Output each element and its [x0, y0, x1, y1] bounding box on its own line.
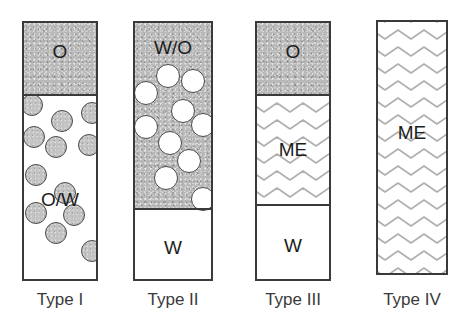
droplet-oil [63, 204, 85, 226]
phase-divider [135, 208, 211, 210]
phase-behaviour-figure: OO/WW/OWOMEWMEType IType IIType IIIType … [0, 0, 475, 324]
phase-oil: O [24, 23, 96, 95]
wave-pattern-icon [378, 22, 446, 275]
vial-caption-3: Type III [250, 290, 336, 310]
phase-label-oil: O [24, 41, 96, 63]
droplet-oil [45, 136, 67, 158]
droplet-water [134, 81, 158, 105]
phase-divider [24, 94, 96, 96]
vial-type-2: W/OW [133, 21, 213, 281]
droplet-oil [54, 182, 76, 204]
phase-label-water: W [257, 235, 329, 257]
phase-microemulsion: ME [378, 22, 446, 275]
phase-divider [257, 94, 329, 96]
droplet-oil [81, 240, 98, 262]
phase-oil: O [257, 23, 329, 95]
phase-label-water-in-oil: W/O [135, 37, 211, 59]
phase-water: W [135, 209, 211, 281]
vial-type-1: OO/W [22, 21, 98, 281]
droplet-oil [25, 202, 47, 224]
phase-water: W [257, 205, 329, 281]
droplet-oil [81, 102, 98, 124]
droplet-water [191, 113, 213, 137]
droplet-oil [22, 94, 43, 116]
droplet-water [158, 131, 182, 155]
phase-label-oil: O [257, 41, 329, 63]
droplet-water [154, 166, 178, 190]
droplet-water [181, 69, 205, 93]
phase-microemulsion: ME [257, 95, 329, 205]
droplet-oil [45, 222, 67, 244]
droplet-oil [25, 164, 47, 186]
vial-caption-4: Type IV [372, 290, 452, 310]
vial-type-3: OMEW [255, 21, 331, 281]
droplet-oil [23, 126, 45, 148]
wave-pattern-icon [257, 95, 329, 205]
phase-divider [257, 204, 329, 206]
vial-caption-2: Type II [130, 290, 216, 310]
phase-label-water: W [135, 237, 211, 259]
droplet-water [156, 64, 180, 88]
droplet-water [177, 149, 201, 173]
droplet-oil [51, 110, 73, 132]
vial-type-4: ME [376, 20, 448, 275]
vial-caption-1: Type I [22, 290, 98, 310]
droplet-oil [78, 134, 98, 156]
droplet-water [134, 115, 158, 139]
